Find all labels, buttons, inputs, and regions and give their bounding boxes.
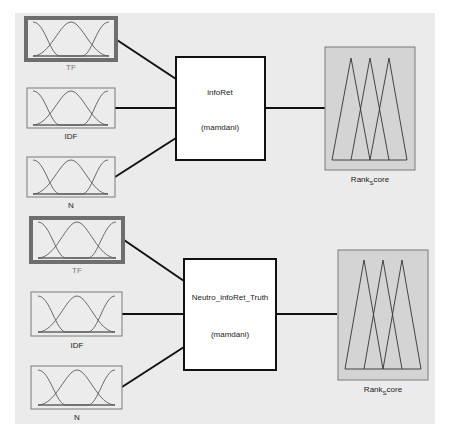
- input-label-tf: TF: [72, 266, 82, 275]
- fis-type: (mamdani): [201, 123, 240, 132]
- input-idf-box[interactable]: [31, 292, 122, 336]
- fis-name: infoRet: [207, 88, 233, 97]
- fis-block-inforet[interactable]: infoRet (mamdani): [176, 57, 265, 160]
- fis-type: (mamdani): [211, 330, 250, 339]
- input-tf-box[interactable]: [31, 218, 123, 262]
- output-variable-rankscore[interactable]: RankScore: [338, 250, 428, 396]
- fis-block-neutro-inforet-truth[interactable]: Neutro_infoRet_Truth (mamdani): [184, 259, 276, 370]
- fis-name: Neutro_infoRet_Truth: [192, 293, 269, 302]
- input-label-idf: IDF: [71, 341, 84, 350]
- input-n-box[interactable]: [31, 366, 122, 409]
- fis-box[interactable]: [176, 57, 265, 160]
- fis-box[interactable]: [184, 259, 276, 370]
- output-variable-rankscore[interactable]: RankScore: [325, 47, 415, 186]
- input-label-n: N: [74, 413, 80, 422]
- input-label-idf: IDF: [65, 132, 78, 141]
- input-tf-box[interactable]: [26, 18, 116, 60]
- input-label-n: N: [68, 201, 74, 210]
- output-rankscore-box[interactable]: [338, 250, 428, 380]
- output-rankscore-box[interactable]: [325, 47, 415, 170]
- input-idf-box[interactable]: [27, 88, 115, 128]
- input-n-box[interactable]: [27, 157, 115, 197]
- input-label-tf: TF: [66, 63, 76, 72]
- fuzzy-system-diagram: TF IDF N info: [0, 0, 450, 438]
